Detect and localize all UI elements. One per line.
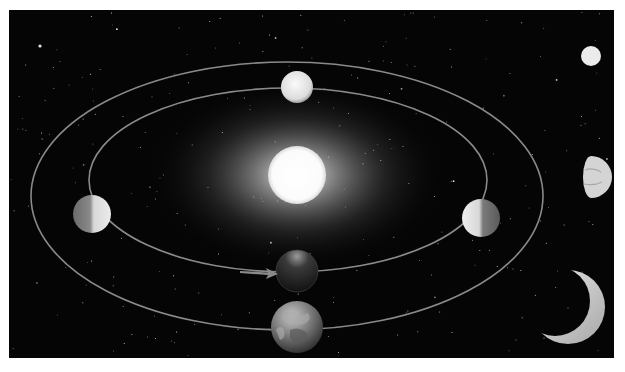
earth [271,301,323,353]
venus-view-full-phase [581,46,601,66]
venus-half-left [73,195,111,233]
venus-new-front-of-sun [276,250,318,292]
venus-half-right [462,199,500,237]
venus-full-behind-sun [281,71,313,103]
venus-view-crescent-phase [520,260,620,360]
sun [268,146,326,204]
venus-phases-diagram [0,0,625,372]
